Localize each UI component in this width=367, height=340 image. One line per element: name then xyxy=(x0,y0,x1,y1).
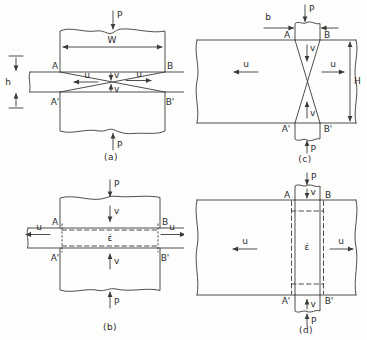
caption-b: (b) xyxy=(103,322,117,332)
punch-width-label: b xyxy=(265,12,271,22)
plate-outline xyxy=(196,200,357,295)
plate-outline xyxy=(196,40,357,123)
v-top-label: v xyxy=(114,70,120,80)
caption-d: (d) xyxy=(299,325,313,335)
v-top-label: v xyxy=(114,206,120,216)
corner-a-label: A xyxy=(284,30,291,40)
thickness-label: h xyxy=(5,77,11,87)
v-top-label: v xyxy=(311,187,317,197)
corner-b-label: B xyxy=(325,190,331,200)
u-left-label: u xyxy=(242,236,248,246)
v-bottom-label: v xyxy=(114,84,120,94)
corner-b-label: B xyxy=(167,61,173,71)
caption-a: (a) xyxy=(104,152,118,162)
corner-b-prime-label: B' xyxy=(324,124,333,134)
lower-punch-outline xyxy=(295,295,320,312)
force-top-label: P xyxy=(117,10,123,20)
v-bottom-label: v xyxy=(310,108,316,118)
corner-a-label: A xyxy=(52,217,59,227)
v-bottom-label: v xyxy=(311,299,317,309)
u-right-label: u xyxy=(169,222,175,232)
width-label: W xyxy=(108,35,117,45)
panel-b: P v A B ε̇ u u A' xyxy=(0,170,184,340)
upper-punch-outline xyxy=(295,22,320,40)
corner-b-label: B xyxy=(324,30,330,40)
thickness-dimension xyxy=(9,56,23,108)
u-left-label: u xyxy=(84,70,90,80)
compression-geometry-figure: P W h u u xyxy=(0,0,367,340)
force-top-label: P xyxy=(114,179,120,189)
plate-height-label: H xyxy=(354,76,361,86)
force-bottom-label: P xyxy=(114,297,120,307)
corner-a-prime-label: A' xyxy=(51,253,60,263)
panel-a: P W h u u xyxy=(0,0,184,170)
u-left-label: u xyxy=(243,59,249,69)
force-top-label: P xyxy=(309,4,315,14)
corner-b-prime-label: B' xyxy=(325,296,334,306)
corner-a-label: A xyxy=(284,190,291,200)
corner-a-prime-label: A' xyxy=(282,296,291,306)
caption-c: (c) xyxy=(298,154,311,164)
strain-rate-label: ε̇ xyxy=(305,242,310,252)
strain-rate-label: ε̇ xyxy=(108,233,113,243)
panel-d: P v A B ε̇ u xyxy=(184,170,367,340)
v-top-label: v xyxy=(310,43,316,53)
strip-outline xyxy=(27,228,184,248)
strip-outline xyxy=(29,72,184,92)
corner-a-label: A xyxy=(52,61,59,71)
corner-b-prime-label: B' xyxy=(161,253,170,263)
corner-b-prime-label: B' xyxy=(166,97,175,107)
lower-punch-outline xyxy=(295,123,320,141)
shear-band-diagonals xyxy=(295,40,320,123)
u-right-label: u xyxy=(330,59,336,69)
lower-platen-outline xyxy=(60,92,165,134)
v-bottom-label: v xyxy=(114,256,120,266)
force-bottom-label: P xyxy=(311,144,317,154)
corner-a-prime-label: A' xyxy=(51,97,60,107)
upper-punch-outline xyxy=(295,185,320,200)
u-left-label: u xyxy=(36,222,42,232)
force-bottom-label: P xyxy=(117,140,123,150)
force-top-label: P xyxy=(311,172,317,182)
corner-a-prime-label: A' xyxy=(282,124,291,134)
u-right-label: u xyxy=(136,69,142,79)
u-right-label: u xyxy=(338,236,344,246)
panel-c: P b A B v v u xyxy=(184,0,367,170)
corner-b-label: B xyxy=(162,217,168,227)
